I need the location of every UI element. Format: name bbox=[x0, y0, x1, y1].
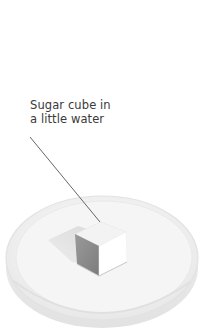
illustration bbox=[0, 0, 212, 334]
